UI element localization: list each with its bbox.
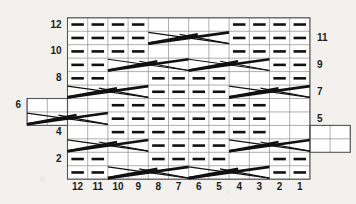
row-label-left-12: 12 [46, 20, 62, 30]
row-label-right-9: 9 [317, 60, 323, 70]
column-label-1: 1 [290, 182, 310, 192]
column-label-11: 11 [88, 182, 108, 192]
row-label-right-7: 7 [317, 87, 323, 97]
chart-canvas [0, 0, 356, 204]
row-label-left-10: 10 [46, 46, 62, 56]
row-label-left-2: 2 [46, 154, 62, 164]
column-label-9: 9 [128, 182, 148, 192]
row-label-right-5: 5 [317, 114, 323, 124]
row-label-right-11: 11 [317, 33, 328, 43]
column-label-6: 6 [189, 182, 209, 192]
column-label-5: 5 [209, 182, 229, 192]
column-label-4: 4 [229, 182, 249, 192]
column-label-10: 10 [108, 182, 128, 192]
column-label-2: 2 [270, 182, 290, 192]
column-label-3: 3 [249, 182, 269, 192]
row-label-left-6: 6 [5, 100, 21, 110]
column-label-7: 7 [169, 182, 189, 192]
row-label-left-4: 4 [46, 127, 62, 137]
row-label-left-8: 8 [46, 73, 62, 83]
column-label-12: 12 [68, 182, 88, 192]
knitting-cable-chart: 121086421197531121110987654321← [0, 0, 356, 204]
column-label-8: 8 [148, 182, 168, 192]
